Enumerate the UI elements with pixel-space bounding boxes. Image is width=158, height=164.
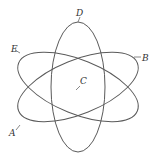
leader-c — [76, 86, 80, 90]
leader-a — [16, 125, 20, 130]
label-e: E — [10, 44, 18, 54]
label-b: B — [141, 53, 149, 63]
label-c: C — [80, 76, 87, 86]
label-d: D — [75, 8, 83, 18]
label-a: A — [8, 128, 16, 138]
orbit-diagram: D E B A C — [0, 0, 158, 164]
orbit-tilted-down — [9, 38, 148, 136]
orbit-vertical — [51, 22, 105, 152]
orbit-tilted-up — [9, 38, 148, 136]
